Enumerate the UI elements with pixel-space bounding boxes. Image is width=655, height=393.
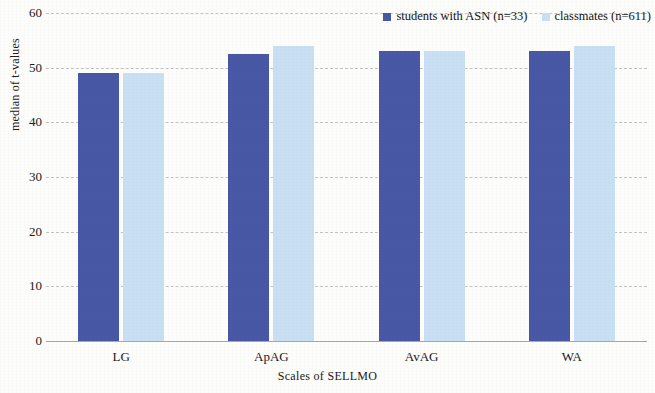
bar-avag-students [379, 51, 420, 341]
y-tick-label: 30 [2, 170, 42, 183]
bar-wa-classmates [574, 46, 615, 341]
bar-lg-classmates [123, 73, 164, 341]
legend-label-students-with-asn: students with ASN (n=33) [396, 9, 527, 24]
bar-apag-students [228, 54, 269, 341]
y-tick-label: 50 [2, 61, 42, 74]
y-tick-label: 20 [2, 225, 42, 238]
legend-swatch-classmates [542, 13, 550, 21]
y-tick-label: 0 [2, 334, 42, 347]
chart-legend: students with ASN (n=33) classmates (n=6… [383, 9, 651, 24]
gridline-0 [46, 341, 647, 342]
chart-figure: students with ASN (n=33) classmates (n=6… [0, 0, 655, 393]
y-tick-label: 60 [2, 6, 42, 19]
legend-item-classmates: classmates (n=611) [542, 9, 652, 24]
x-tick-label-wa: WA [522, 349, 622, 365]
bar-apag-classmates [273, 46, 314, 341]
legend-label-classmates: classmates (n=611) [555, 9, 652, 24]
x-tick-label-lg: LG [71, 349, 171, 365]
x-tick-label-avag: AvAG [372, 349, 472, 365]
legend-item-students-with-asn: students with ASN (n=33) [383, 9, 527, 24]
plot-area: median of t-values 0102030405060 LGApAGA… [46, 13, 647, 341]
y-tick-label: 40 [2, 115, 42, 128]
x-tick-label-apag: ApAG [221, 349, 321, 365]
bar-wa-students [529, 51, 570, 341]
y-tick-label: 10 [2, 279, 42, 292]
x-axis-title: Scales of SELLMO [0, 369, 655, 384]
bar-avag-classmates [424, 51, 465, 341]
bar-lg-students [78, 73, 119, 341]
legend-swatch-students-with-asn [383, 13, 391, 21]
